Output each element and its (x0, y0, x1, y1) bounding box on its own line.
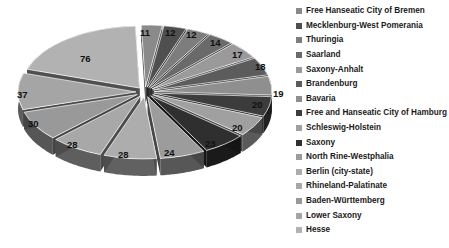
pie-chart: 11121214171819202023242828303776 Free Ha… (0, 0, 449, 248)
legend-swatch-icon (296, 169, 302, 175)
legend-item-label: Saarland (306, 51, 341, 59)
pie-slice-value-label: 11 (140, 28, 150, 38)
legend-item[interactable]: Rhineland-Palatinate (296, 179, 448, 194)
legend-item[interactable]: Saxony (296, 135, 448, 150)
legend-item[interactable]: Berlin (city-state) (296, 165, 448, 180)
legend-item-label: Bavaria (306, 95, 336, 103)
legend-swatch-icon (296, 183, 302, 189)
legend-item-label: Berlin (city-state) (306, 168, 373, 176)
legend-item[interactable]: Brandenburg (296, 77, 448, 92)
pie-slice-value-label: 20 (232, 123, 243, 133)
legend-item-label: North Rine-Westphalia (306, 153, 394, 161)
legend-item[interactable]: Schleswig-Holstein (296, 121, 448, 136)
legend-item-label: Free Hanseatic City of Bremen (306, 7, 425, 15)
legend-item-label: Mecklenburg-West Pomerania (306, 22, 423, 30)
legend-item[interactable]: Free Hanseatic City of Bremen (296, 4, 448, 19)
legend-swatch-icon (296, 23, 302, 29)
legend-swatch-icon (296, 213, 302, 219)
pie-slice-value-label: 24 (164, 148, 175, 158)
legend-item-label: Hesse (306, 226, 330, 234)
legend-item-label: Rhineland-Palatinate (306, 182, 387, 190)
legend-swatch-icon (296, 125, 302, 131)
legend-swatch-icon (296, 81, 302, 87)
pie-slice-value-label: 30 (28, 119, 39, 129)
legend-swatch-icon (296, 96, 302, 102)
pie-slice-value-label: 18 (255, 62, 266, 72)
legend-item-label: Brandenburg (306, 80, 357, 88)
legend-item-label: Free and Hanseatic City of Hamburg (306, 109, 447, 117)
legend-item[interactable]: Baden-Württemberg (296, 194, 448, 209)
legend-swatch-icon (296, 110, 302, 116)
pie-slice-value-label: 19 (273, 89, 284, 99)
legend-item-label: Schleswig-Holstein (306, 124, 381, 132)
legend-item[interactable]: North Rine-Westphalia (296, 150, 448, 165)
legend-item[interactable]: Thuringia (296, 33, 448, 48)
legend-item[interactable]: Lower Saxony (296, 208, 448, 223)
legend-item[interactable]: Bavaria (296, 92, 448, 107)
pie-slice-value-label: 20 (252, 100, 263, 110)
legend-swatch-icon (296, 37, 302, 43)
legend-item[interactable]: Mecklenburg-West Pomerania (296, 19, 448, 34)
legend-item[interactable]: Saarland (296, 48, 448, 63)
legend-item[interactable]: Saxony-Anhalt (296, 62, 448, 77)
legend-item-label: Saxony (306, 139, 335, 147)
pie-slice-value-label: 28 (118, 150, 129, 160)
legend-swatch-icon (296, 8, 302, 14)
legend-item[interactable]: Hesse (296, 223, 448, 238)
pie-slice-value-label: 14 (210, 38, 221, 48)
pie-slice-value-label: 17 (232, 50, 243, 60)
pie-slice-value-label: 12 (186, 30, 197, 40)
pie-slice-value-label: 76 (80, 54, 91, 64)
chart-legend: Free Hanseatic City of BremenMecklenburg… (296, 4, 448, 244)
legend-swatch-icon (296, 140, 302, 146)
legend-item[interactable]: Free and Hanseatic City of Hamburg (296, 106, 448, 121)
legend-swatch-icon (296, 227, 302, 233)
pie-slice-value-label: 12 (165, 28, 176, 38)
pie-slice-value-label: 37 (17, 90, 28, 100)
legend-item-label: Lower Saxony (306, 212, 362, 220)
pie-plot-area: 11121214171819202023242828303776 (0, 0, 290, 210)
legend-item-label: Baden-Württemberg (306, 197, 385, 205)
pie-slice-value-label: 23 (205, 139, 216, 149)
legend-item-label: Thuringia (306, 36, 343, 44)
legend-swatch-icon (296, 198, 302, 204)
legend-item-label: Saxony-Anhalt (306, 66, 363, 74)
legend-swatch-icon (296, 154, 302, 160)
legend-swatch-icon (296, 67, 302, 73)
legend-swatch-icon (296, 52, 302, 58)
pie-slice-value-label: 28 (67, 140, 78, 150)
